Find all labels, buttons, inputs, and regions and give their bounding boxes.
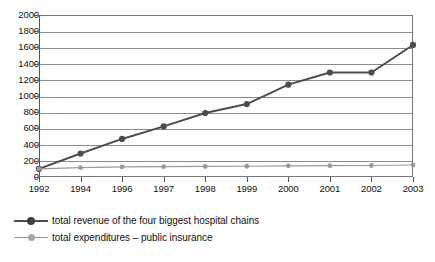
chart-figure: 0200400600800100012001400160018002000 19… xyxy=(0,0,435,262)
series-line xyxy=(39,45,413,169)
y-axis-tick-mark xyxy=(34,177,38,178)
data-point-marker xyxy=(368,69,374,75)
data-point-marker xyxy=(411,163,416,168)
y-axis-tick-mark xyxy=(34,112,38,113)
data-point-marker xyxy=(120,164,125,169)
data-point-marker xyxy=(161,123,167,129)
y-axis: 0200400600800100012001400160018002000 xyxy=(0,0,39,200)
x-axis-tick-mark xyxy=(164,177,165,182)
y-axis-tick-mark xyxy=(34,80,38,81)
x-axis-tick-label: 1992 xyxy=(19,184,59,194)
plot-wrapper: 0200400600800100012001400160018002000 19… xyxy=(0,0,435,200)
data-point-marker xyxy=(37,167,42,172)
legend-marker-public-insurance xyxy=(14,232,48,244)
series-line xyxy=(39,165,413,169)
x-axis-tick-label: 2003 xyxy=(393,184,433,194)
y-axis-tick-mark xyxy=(34,161,38,162)
series-layer xyxy=(39,15,413,177)
data-point-marker xyxy=(78,165,83,170)
y-axis-tick-mark xyxy=(34,145,38,146)
chart-legend: total revenue of the four biggest hospit… xyxy=(14,212,434,246)
y-axis-tick-mark xyxy=(34,64,38,65)
y-axis-tick-mark xyxy=(34,96,38,97)
x-axis-tick-label: 2000 xyxy=(268,184,308,194)
x-axis-tick-label: 2001 xyxy=(310,184,350,194)
x-axis-tick-mark xyxy=(122,177,123,182)
x-axis-tick-label: 1994 xyxy=(61,184,101,194)
x-axis-tick-label: 1997 xyxy=(144,184,184,194)
x-axis-tick-mark xyxy=(413,177,414,182)
y-axis-tick-mark xyxy=(34,128,38,129)
x-axis-tick-label: 1999 xyxy=(227,184,267,194)
data-point-marker xyxy=(410,42,416,48)
data-point-marker xyxy=(161,164,166,169)
circle-marker-icon xyxy=(27,217,35,225)
circle-marker-icon xyxy=(28,234,35,241)
data-point-marker xyxy=(77,150,83,156)
legend-item-total-revenue: total revenue of the four biggest hospit… xyxy=(14,212,434,229)
x-axis-tick-mark xyxy=(247,177,248,182)
data-point-marker xyxy=(369,163,374,168)
data-point-marker xyxy=(244,164,249,169)
legend-marker-total-revenue xyxy=(14,215,48,227)
x-axis-tick-mark xyxy=(330,177,331,182)
data-point-marker xyxy=(285,82,291,88)
data-point-marker xyxy=(327,163,332,168)
data-point-marker xyxy=(203,164,208,169)
x-axis-tick-label: 1996 xyxy=(102,184,142,194)
legend-item-public-insurance: total expenditures – public insurance xyxy=(14,229,434,246)
x-axis-tick-mark xyxy=(205,177,206,182)
data-point-marker xyxy=(202,110,208,116)
data-point-marker xyxy=(286,163,291,168)
legend-label-total-revenue: total revenue of the four biggest hospit… xyxy=(52,215,259,227)
x-axis-tick-label: 2002 xyxy=(351,184,391,194)
data-point-marker xyxy=(244,101,250,107)
x-axis-tick-mark xyxy=(371,177,372,182)
x-axis-tick-mark xyxy=(288,177,289,182)
y-axis-tick-mark xyxy=(34,15,38,16)
data-point-marker xyxy=(327,69,333,75)
y-axis-tick-mark xyxy=(34,31,38,32)
data-point-marker xyxy=(119,136,125,142)
y-axis-tick-mark xyxy=(34,47,38,48)
x-axis-tick-mark xyxy=(39,177,40,182)
x-axis-tick-mark xyxy=(81,177,82,182)
x-axis-tick-label: 1998 xyxy=(185,184,225,194)
legend-label-public-insurance: total expenditures – public insurance xyxy=(52,232,212,244)
